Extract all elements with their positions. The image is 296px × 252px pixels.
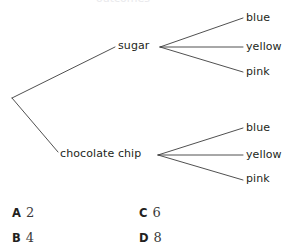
answer-option-a[interactable]: A2 <box>12 206 34 220</box>
tree-leaf-chocolate-chip-yellow: yellow <box>246 149 282 161</box>
answer-option-d-value: 8 <box>154 230 162 245</box>
answer-option-a-letter: A <box>12 206 21 220</box>
answer-option-a-value: 2 <box>26 205 34 220</box>
answer-option-b-letter: B <box>12 231 21 245</box>
tree-node-chocolate-chip: chocolate chip <box>60 148 141 160</box>
answer-option-b-value: 4 <box>26 230 34 245</box>
tree-node-sugar: sugar <box>118 40 149 52</box>
answer-option-c-letter: C <box>139 206 147 220</box>
tree-leaf-sugar-pink: pink <box>246 66 270 78</box>
tree-leaf-chocolate-chip-blue: blue <box>246 122 270 134</box>
answer-options: A2 B4 C6 D8 <box>0 200 296 252</box>
tree-diagram-lines <box>0 0 296 200</box>
answer-option-c-value: 6 <box>152 205 160 220</box>
edge-sugar-to-blue <box>160 18 243 47</box>
tree-leaf-sugar-blue: blue <box>246 12 270 24</box>
edge-chocolate-chip-to-pink <box>158 155 243 180</box>
question-page: outcomes sugar chocolate chip blue yello… <box>0 0 296 252</box>
answer-option-d-letter: D <box>139 231 149 245</box>
answer-option-c[interactable]: C6 <box>139 206 161 220</box>
answer-option-b[interactable]: B4 <box>12 231 34 245</box>
tree-leaf-sugar-yellow: yellow <box>246 41 282 53</box>
answer-option-d[interactable]: D8 <box>139 231 162 245</box>
edge-root-to-sugar <box>12 47 115 98</box>
edge-chocolate-chip-to-blue <box>158 128 243 155</box>
edge-root-to-chocolate-chip <box>12 98 58 152</box>
edge-sugar-to-pink <box>160 47 243 72</box>
tree-leaf-chocolate-chip-pink: pink <box>246 173 270 185</box>
